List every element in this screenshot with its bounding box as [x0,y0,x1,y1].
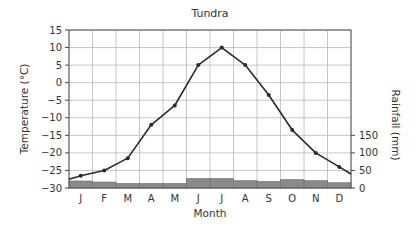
temperature-point [149,123,153,127]
x-tick-label: N [312,193,319,204]
y-axis-left-ticks: 151050−5−10−15−20−25−30 [41,25,69,194]
x-tick-label: O [288,193,296,204]
rainfall-bar [257,181,281,188]
chart-title: Tundra [190,7,228,20]
rainfall-bar [187,179,211,188]
grid [69,30,351,188]
x-tick-label: J [78,193,82,204]
y2-tick-label: 0 [359,183,365,194]
rainfall-bar [93,182,117,188]
climate-chart: Tundra 151050−5−10−15−20−25−30 050100150… [0,0,416,229]
y-tick-label: 10 [49,42,62,53]
x-tick-label: A [242,193,249,204]
y-tick-label: −25 [41,165,62,176]
y-axis-left-label: Temperature (°C) [18,64,30,156]
y-tick-label: −5 [47,95,62,106]
rainfall-bar [69,181,93,188]
y-axis-right-label: Rainfall (mm) [390,89,402,160]
rainfall-bar [234,181,258,188]
temperature-point [102,168,106,172]
y-tick-label: −30 [41,183,62,194]
temperature-point [79,174,83,178]
y2-tick-label: 150 [359,130,378,141]
x-tick-label: D [335,193,343,204]
rainfall-bar [281,180,305,188]
x-tick-label: S [266,193,272,204]
x-axis-ticks: JFMAMJJASOND [78,193,343,204]
y-tick-label: 5 [56,60,62,71]
rainfall-bar [210,179,234,188]
y-tick-label: −10 [41,112,62,123]
x-tick-label: J [219,193,223,204]
temperature-point [267,93,271,97]
x-tick-label: M [123,193,132,204]
y2-tick-label: 100 [359,147,378,158]
temperature-point [220,46,224,50]
rainfall-bars [69,179,351,188]
temperature-point [314,151,318,155]
rainfall-bar [163,183,187,188]
temperature-point [173,103,177,107]
temperature-point [243,63,247,67]
y-tick-label: −20 [41,147,62,158]
rainfall-bar [116,183,140,188]
x-tick-label: M [170,193,179,204]
x-tick-label: A [148,193,155,204]
y-axis-right-ticks: 050100150 [351,130,378,194]
y-tick-label: 0 [56,77,62,88]
x-tick-label: F [101,193,107,204]
y-tick-label: −15 [41,130,62,141]
y2-tick-label: 50 [359,165,372,176]
temperature-point [126,156,130,160]
temperature-point [290,128,294,132]
rainfall-bar [328,183,352,188]
y-tick-label: 15 [49,25,62,36]
rainfall-bar [140,183,164,188]
x-axis-label: Month [194,207,227,219]
x-tick-label: J [196,193,200,204]
rainfall-bar [304,181,328,188]
temperature-point [337,165,341,169]
temperature-point [196,63,200,67]
